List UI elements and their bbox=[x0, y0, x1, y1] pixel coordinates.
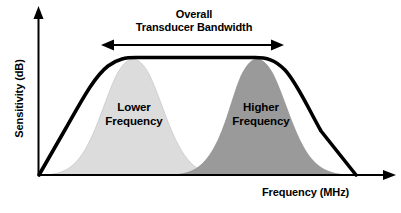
lower-frequency-label-line-1: Lower bbox=[95, 101, 173, 115]
bandwidth-arrow-right-head bbox=[271, 40, 284, 51]
y-axis-label: Sensitivity (dB) bbox=[13, 43, 26, 153]
x-axis-arrowhead bbox=[383, 170, 396, 180]
x-axis-label: Frequency (MHz) bbox=[262, 186, 349, 199]
transducer-bandwidth-figure: Overall Transducer Bandwidth Lower Frequ… bbox=[0, 0, 401, 213]
bandwidth-arrow-left-head bbox=[101, 40, 114, 51]
higher-frequency-label: Higher Frequency bbox=[221, 101, 301, 128]
higher-frequency-label-line-1: Higher bbox=[221, 101, 301, 115]
higher-frequency-label-line-2: Frequency bbox=[221, 115, 301, 129]
bandwidth-title-line-2: Transducer Bandwidth bbox=[126, 21, 262, 34]
lower-frequency-label-line-2: Frequency bbox=[95, 115, 173, 129]
bandwidth-title-line-1: Overall bbox=[126, 8, 262, 21]
y-axis-arrowhead bbox=[34, 6, 44, 19]
lower-frequency-label: Lower Frequency bbox=[95, 101, 173, 128]
bandwidth-annotation-title: Overall Transducer Bandwidth bbox=[126, 8, 262, 34]
